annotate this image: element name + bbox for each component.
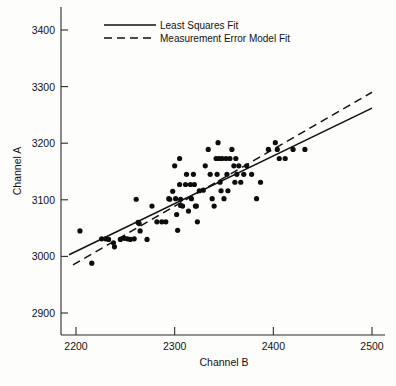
data-point [163, 219, 168, 224]
data-point [275, 147, 280, 152]
data-point [273, 140, 278, 145]
legend: Least Squares FitMeasurement Error Model… [104, 20, 290, 44]
data-point [227, 156, 232, 161]
x-axis-ticks: 2200230024002500 [64, 327, 384, 352]
data-point [195, 219, 200, 224]
data-point [206, 147, 211, 152]
x-axis-title: Channel B [199, 356, 248, 368]
x-tick-label-2300: 2300 [163, 340, 187, 352]
data-point [191, 172, 196, 177]
y-axis-ticks: 290030003100320033003400 [32, 24, 68, 319]
data-point [302, 147, 307, 152]
data-point [194, 203, 199, 208]
y-tick-label-3000: 3000 [32, 250, 56, 262]
data-point [229, 147, 234, 152]
data-point [177, 156, 182, 161]
scatter-plot-figure: 290030003100320033003400 220023002400250… [0, 0, 396, 386]
data-point [201, 188, 206, 193]
data-point [132, 236, 137, 241]
data-point [221, 196, 226, 201]
data-point [218, 188, 223, 193]
data-point [177, 182, 182, 187]
data-point [236, 163, 241, 168]
data-point [175, 228, 180, 233]
data-point [144, 237, 149, 242]
data-point [112, 244, 117, 249]
data-point [172, 163, 177, 168]
plot-canvas: 290030003100320033003400 220023002400250… [0, 0, 396, 386]
data-point [137, 221, 142, 226]
data-point [212, 203, 217, 208]
data-point [173, 196, 178, 201]
data-point [224, 172, 229, 177]
y-tick-label-3300: 3300 [32, 81, 56, 93]
fit-lines-group [69, 92, 372, 265]
data-point [258, 180, 263, 185]
data-point [266, 147, 271, 152]
data-point [138, 228, 143, 233]
data-point [149, 203, 154, 208]
data-point [192, 182, 197, 187]
data-point [238, 180, 243, 185]
y-tick-label-3100: 3100 [32, 194, 56, 206]
data-point [154, 219, 159, 224]
data-point [189, 196, 194, 201]
data-point [186, 209, 191, 214]
data-point [277, 156, 282, 161]
data-point [208, 172, 213, 177]
data-point [233, 156, 238, 161]
data-point [249, 172, 254, 177]
data-point [234, 172, 239, 177]
data-point [244, 163, 249, 168]
data-point [170, 189, 175, 194]
x-tick-label-2200: 2200 [64, 340, 88, 352]
data-point [231, 163, 236, 168]
legend-label-1: Measurement Error Model Fit [160, 33, 290, 44]
data-point [214, 172, 219, 177]
legend-label-0: Least Squares Fit [160, 20, 239, 31]
data-point [178, 197, 183, 202]
data-point [89, 261, 94, 266]
axes-spines [61, 7, 385, 335]
data-point [77, 228, 82, 233]
data-point [203, 163, 208, 168]
data-point [232, 180, 237, 185]
y-tick-label-3200: 3200 [32, 137, 56, 149]
data-points-group [77, 140, 307, 266]
data-point [217, 180, 222, 185]
x-tick-label-2400: 2400 [262, 340, 286, 352]
data-point [106, 237, 111, 242]
data-point [290, 147, 295, 152]
y-axis-title: Channel A [11, 147, 23, 195]
data-point [183, 182, 188, 187]
x-tick-label-2500: 2500 [360, 340, 384, 352]
data-point [180, 203, 185, 208]
data-point [241, 172, 246, 177]
data-point [225, 188, 230, 193]
data-point [283, 156, 288, 161]
data-point [184, 172, 189, 177]
y-tick-label-3400: 3400 [32, 24, 56, 36]
data-point [215, 140, 220, 145]
data-point [210, 196, 215, 201]
data-point [174, 212, 179, 217]
data-point [254, 196, 259, 201]
data-point [167, 197, 172, 202]
data-point [134, 197, 139, 202]
y-tick-label-2900: 2900 [32, 307, 56, 319]
